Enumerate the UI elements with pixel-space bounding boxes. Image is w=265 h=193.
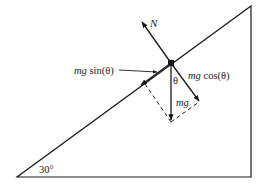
mg-sin-arrow [141,63,171,85]
incline-triangle [17,6,251,177]
weight-label: mg [176,97,189,108]
mg-sin-pointer [119,70,157,72]
theta-label: θ [173,75,178,86]
mg-cos-label-mg: mg [188,70,201,81]
mg-sin-label-fn: sin(θ) [87,65,114,77]
block-dot [168,60,174,66]
incline-angle-label: 30° [39,164,54,175]
mg-sin-label-mg: mg [74,65,87,76]
mg-sin-label: mg sin(θ) [74,65,114,77]
normal-force-label: N [149,17,158,29]
dashed-line-parallel [145,84,171,122]
mg-cos-label: mg cos(θ) [188,70,230,82]
inclined-plane-diagram: N mg sin(θ) θ mg cos(θ) mg 30° [0,0,265,193]
mg-cos-label-fn: cos(θ) [201,70,230,82]
